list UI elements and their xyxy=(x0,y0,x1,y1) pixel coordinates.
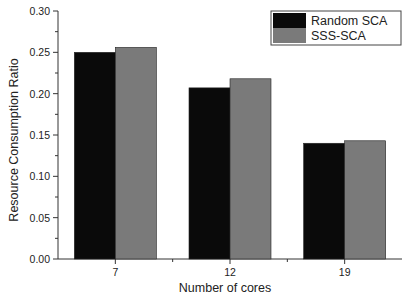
y-tick-label: 0.00 xyxy=(30,253,51,265)
x-tick-label: 7 xyxy=(112,266,118,278)
bar-sss-sca-7 xyxy=(115,47,156,259)
x-tick-label: 12 xyxy=(224,266,236,278)
y-tick-label: 0.20 xyxy=(30,88,51,100)
y-tick-label: 0.25 xyxy=(30,46,51,58)
y-ticks: 0.000.050.100.150.200.250.30 xyxy=(30,5,58,265)
y-tick-label: 0.10 xyxy=(30,170,51,182)
y-tick-label: 0.05 xyxy=(30,212,51,224)
legend-swatch xyxy=(273,28,306,43)
x-axis-label: Number of cores xyxy=(179,281,271,295)
y-tick-label: 0.30 xyxy=(30,5,51,17)
y-tick-label: 0.15 xyxy=(30,129,51,141)
legend: Random SCASSS-SCA xyxy=(271,11,401,45)
bar-sss-sca-19 xyxy=(345,141,386,259)
legend-swatch xyxy=(273,13,306,28)
bar-random-sca-7 xyxy=(74,52,115,259)
bar-random-sca-19 xyxy=(304,143,345,259)
x-ticks: 71219 xyxy=(112,259,350,278)
y-axis-label: Resource Consumption Ratio xyxy=(7,58,21,221)
bars xyxy=(74,47,385,259)
legend-label: Random SCA xyxy=(311,14,388,28)
bar-chart: 0.000.050.100.150.200.250.30 71219 Resou… xyxy=(0,0,410,300)
x-tick-label: 19 xyxy=(339,266,351,278)
legend-label: SSS-SCA xyxy=(311,29,367,43)
bar-random-sca-12 xyxy=(189,88,230,259)
bar-sss-sca-12 xyxy=(230,79,271,259)
